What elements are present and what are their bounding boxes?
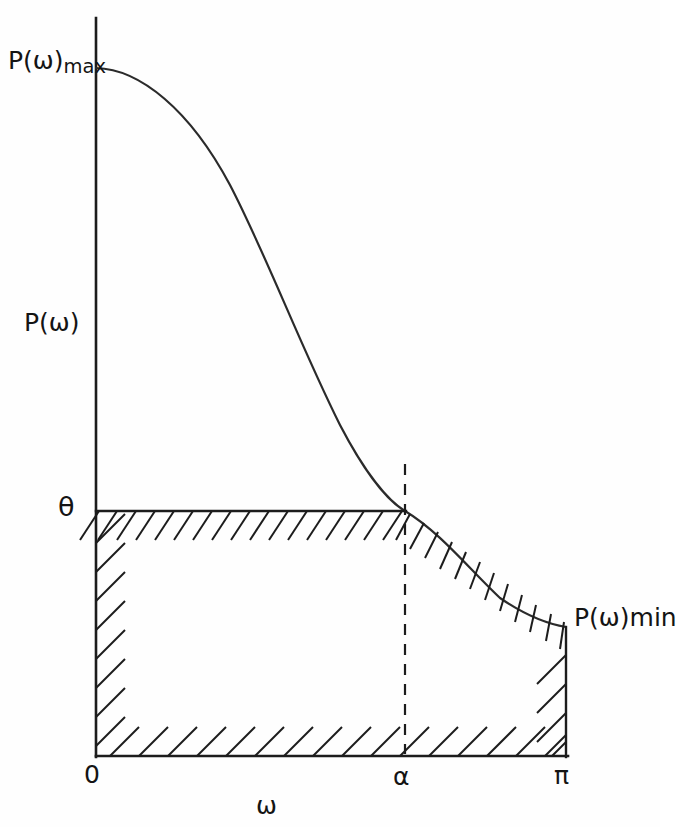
label-p-omega-max-sub: max	[64, 55, 107, 78]
hatch-baseline	[110, 727, 566, 756]
label-x-origin: 0	[84, 762, 100, 787]
label-p-omega-min-sub: min	[630, 603, 677, 632]
label-p-omega-min-arg: (ω)	[589, 603, 629, 632]
hatch-curve-tail	[396, 514, 564, 649]
hatch-right-boundary	[537, 655, 566, 756]
label-x-alpha: α	[393, 764, 409, 789]
label-p-omega-min-text: P	[574, 603, 589, 632]
label-p-omega-min: P(ω)min	[574, 605, 677, 630]
label-y-axis-p-omega: P(ω)	[24, 310, 80, 335]
label-p-omega-max: P(ω)max	[8, 48, 106, 73]
label-p-omega-max-arg: (ω)	[23, 46, 63, 75]
power-spectrum-curve	[96, 68, 566, 627]
label-threshold-theta: θ	[58, 493, 75, 520]
label-x-axis-omega: ω	[256, 793, 277, 818]
label-x-pi: π	[554, 763, 569, 788]
hatch-left-boundary	[96, 514, 125, 746]
label-p-omega-max-text: P	[8, 46, 23, 75]
hatch-threshold-top	[80, 511, 402, 540]
